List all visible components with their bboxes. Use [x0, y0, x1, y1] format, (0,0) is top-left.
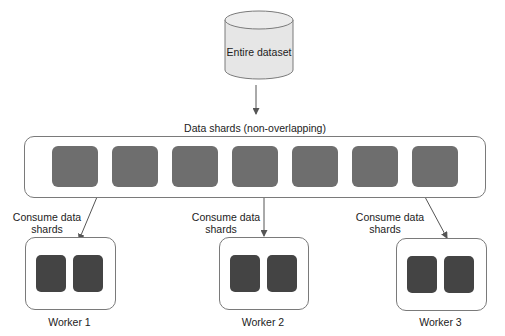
data-shard: [352, 146, 398, 187]
data-shard: [172, 146, 218, 187]
worker-3-label: Worker 3: [396, 316, 485, 328]
data-shard: [112, 146, 158, 187]
database-cylinder-icon: [225, 11, 293, 79]
shards-container-label: Data shards (non-overlapping): [150, 122, 360, 134]
worker-1-shard: [73, 255, 103, 292]
dataset-label: Entire dataset: [225, 46, 293, 58]
data-shard: [52, 146, 98, 187]
consume-label-2a: Consume data: [191, 211, 261, 223]
worker-1-label: Worker 1: [25, 316, 114, 328]
worker-3-shard: [407, 256, 437, 293]
worker-3-shard: [444, 256, 474, 293]
consume-label-2b: shards: [191, 223, 251, 235]
consume-label-1a: Consume data: [12, 211, 82, 223]
worker-2-shard: [267, 255, 297, 292]
data-shard: [292, 146, 338, 187]
consume-label-1b: shards: [12, 223, 82, 235]
consume-label-3a: Consume data: [355, 211, 425, 223]
shards-to-worker-3-arrow: [425, 197, 447, 238]
worker-2-label: Worker 2: [219, 316, 307, 328]
data-shard: [412, 146, 458, 187]
data-shard: [232, 146, 278, 187]
worker-2-shard: [230, 255, 260, 292]
consume-label-3b: shards: [355, 223, 415, 235]
worker-1-shard: [36, 255, 66, 292]
